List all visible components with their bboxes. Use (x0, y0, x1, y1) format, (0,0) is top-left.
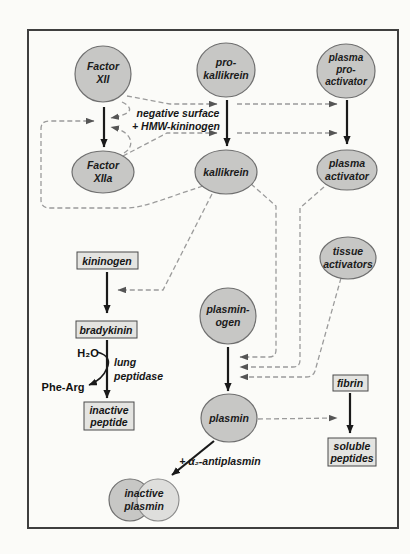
hmw-kininogen-label: + HMW-kininogen (132, 120, 220, 132)
pathway-canvas: Factor XII pro- kallikrein plasma pro- a… (0, 0, 410, 554)
node-plasma-pro-activator: plasma pro- activator (317, 44, 375, 98)
plasma-pro-activator-label2: pro- (335, 64, 356, 75)
node-inactive-plasmin: inactive plasmin (109, 479, 179, 521)
inactive-peptide-label: inactive (89, 404, 128, 416)
box-bradykinin: bradykinin (76, 321, 137, 338)
factor-xiia-label2: XIIa (93, 172, 113, 184)
tissue-activators-label: tissue (333, 245, 364, 257)
dashed-surface-feedback-lower (111, 127, 131, 153)
h2o-label: H₂O (77, 347, 99, 359)
plasma-activator-label: plasma (328, 157, 365, 169)
dashed-tissue-activators-to-plasminogen (240, 278, 341, 377)
bradykinin-label: bradykinin (79, 324, 132, 336)
node-plasminogen: plasmin- ogen (200, 288, 256, 344)
lung-peptidase-label: lung (114, 356, 137, 368)
soluble-peptides-label: soluble (334, 440, 371, 452)
node-tissue-activators: tissue activators (320, 237, 376, 279)
pro-kallikrein-label2: kallikrein (203, 69, 249, 81)
antiplasmin-label: + α₂-antiplasmin (179, 455, 260, 467)
dashed-xii-to-prokallikrein (127, 96, 217, 104)
pro-kallikrein-label: pro- (215, 56, 237, 68)
dashed-surface-feedback-upper (111, 102, 130, 118)
plasma-pro-activator-label: plasma (328, 52, 364, 63)
node-factor-xiia: Factor XIIa (72, 151, 134, 193)
inactive-peptide-label2: peptide (89, 416, 127, 428)
negative-surface-label: negative surface (137, 107, 220, 119)
node-pro-kallikrein: pro- kallikrein (197, 43, 255, 97)
pathway-figure: Factor XII pro- kallikrein plasma pro- a… (0, 0, 410, 554)
plasma-activator-label2: activator (325, 170, 370, 182)
plasminogen-label2: ogen (215, 316, 240, 328)
node-kallikrein: kallikrein (195, 150, 257, 194)
phe-arg-label: Phe-Arg (42, 381, 85, 393)
soluble-peptides-label2: peptides (329, 452, 373, 464)
box-soluble-peptides: soluble peptides (328, 438, 376, 466)
node-plasmin: plasmin (201, 394, 257, 442)
inactive-plasmin-label: inactive (124, 487, 163, 499)
dashed-plasmin-to-fibrin (258, 418, 337, 419)
kininogen-label: kininogen (82, 255, 132, 267)
dashed-xiia-to-prokallikrein (123, 133, 217, 156)
plasminogen-label: plasmin- (205, 303, 250, 315)
inactive-plasmin-label2: plasmin (123, 500, 164, 512)
fibrin-label: fibrin (337, 377, 363, 389)
kallikrein-label: kallikrein (203, 166, 249, 178)
factor-xii-label2: XII (96, 73, 111, 85)
box-kininogen: kininogen (77, 252, 138, 269)
box-inactive-peptide: inactive peptide (84, 402, 134, 430)
tissue-activators-label2: activators (323, 258, 373, 270)
plasmin-label: plasmin (208, 412, 249, 424)
box-fibrin: fibrin (333, 375, 368, 391)
dashed-plasma-activator-to-plasminogen (240, 187, 324, 367)
dashed-kallikrein-to-kininogen (118, 194, 212, 290)
plasma-pro-activator-label3: activator (325, 76, 368, 87)
factor-xiia-label: Factor (87, 159, 120, 171)
node-factor-xii: Factor XII (75, 46, 131, 102)
factor-xii-label: Factor (87, 60, 120, 72)
node-plasma-activator: plasma activator (317, 150, 377, 190)
lung-peptidase-label2: peptidase (113, 370, 163, 382)
